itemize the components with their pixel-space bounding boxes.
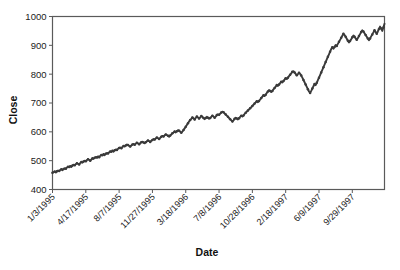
series-marker <box>231 120 234 123</box>
series-marker <box>107 152 110 155</box>
series-marker <box>113 149 116 152</box>
series-marker <box>351 36 354 39</box>
series-marker <box>349 40 352 43</box>
series-marker <box>82 160 85 163</box>
series-marker <box>56 170 59 173</box>
series-marker <box>204 117 207 120</box>
series-marker <box>167 135 170 138</box>
series-marker <box>213 116 216 119</box>
series-marker <box>182 129 185 132</box>
series-marker <box>300 74 303 77</box>
series-marker <box>58 170 61 173</box>
series-marker <box>89 159 92 162</box>
series-marker <box>65 167 68 170</box>
series-marker <box>316 82 319 85</box>
series-marker <box>162 135 165 138</box>
x-tick-label: 7/8/1996 <box>192 192 224 224</box>
series-marker <box>93 157 96 160</box>
y-axis-title: Close <box>7 96 19 125</box>
series-marker <box>309 92 312 95</box>
series-marker <box>347 39 350 42</box>
series-marker <box>158 138 161 141</box>
y-axis-tick-labels: 4005006007008009001000 <box>25 11 46 195</box>
series-marker <box>313 83 316 86</box>
series-marker <box>127 144 130 147</box>
series-marker <box>336 45 339 48</box>
series-marker <box>209 117 212 120</box>
series-marker <box>258 100 261 103</box>
y-tick-label: 900 <box>31 40 47 51</box>
series-marker <box>327 56 330 59</box>
series-marker <box>269 90 272 93</box>
series-marker <box>251 105 254 108</box>
series-marker <box>138 143 141 146</box>
series-marker <box>91 157 94 160</box>
y-tick-label: 500 <box>31 155 47 166</box>
series-marker <box>180 131 183 134</box>
y-tick-label: 1000 <box>25 11 46 22</box>
series-marker <box>60 168 63 171</box>
series-marker <box>80 161 83 164</box>
series-marker <box>51 172 54 175</box>
series-marker <box>322 66 325 69</box>
series-marker <box>98 156 101 159</box>
series-marker <box>340 37 343 40</box>
series-marker <box>247 109 250 112</box>
series-marker <box>278 83 281 86</box>
series-marker <box>198 117 201 120</box>
x-tick-label: 1/3/1995 <box>25 192 57 224</box>
series-marker <box>136 142 139 145</box>
series-marker <box>156 136 159 139</box>
series-marker <box>173 130 176 133</box>
series-marker <box>302 79 305 82</box>
series-marker <box>120 147 123 150</box>
series-marker <box>344 35 347 38</box>
series-marker <box>382 26 385 29</box>
series-marker <box>360 31 363 34</box>
series-marker <box>353 35 356 38</box>
series-marker <box>176 130 179 133</box>
series-marker <box>311 87 314 90</box>
series-marker <box>240 114 243 117</box>
series-marker <box>69 165 72 168</box>
series-marker <box>318 76 321 79</box>
series-marker <box>282 80 285 83</box>
series-marker <box>145 141 148 144</box>
series-marker <box>244 112 247 115</box>
series-marker <box>122 145 125 148</box>
series-marker <box>369 37 372 40</box>
series-marker <box>362 30 365 32</box>
y-tick-label: 700 <box>31 97 47 108</box>
series-marker <box>67 165 70 168</box>
series-marker <box>149 141 152 144</box>
x-axis-tick-labels: 1/3/19954/17/19958/7/199511/27/19953/18/… <box>25 192 357 231</box>
series-marker <box>147 139 150 142</box>
series-marker <box>196 115 199 118</box>
series-marker <box>153 138 156 141</box>
series-marker <box>200 115 203 118</box>
series-marker <box>280 80 283 83</box>
x-tick-label: 6/9/1997 <box>292 192 324 224</box>
series-marker <box>273 87 276 90</box>
series-marker <box>307 88 310 91</box>
x-tick-label: 9/29/1997 <box>321 192 356 227</box>
series-marker <box>142 141 145 144</box>
series-marker <box>133 144 136 147</box>
x-axis-title: Date <box>196 246 219 258</box>
series-marker <box>324 61 327 64</box>
series-marker <box>62 168 65 171</box>
x-tick-label: 10/28/1996 <box>218 192 257 231</box>
close-price-line-chart: 4005006007008009001000 1/3/19954/17/1995… <box>0 0 400 270</box>
series-marker <box>76 162 79 165</box>
series-marker <box>171 132 174 135</box>
series-marker <box>100 154 103 157</box>
series-marker <box>220 111 223 114</box>
y-tick-label: 600 <box>31 126 47 137</box>
series-marker <box>296 74 299 77</box>
x-tick-label: 4/17/1995 <box>55 192 90 227</box>
series-marker <box>53 170 56 173</box>
series-marker <box>193 118 196 121</box>
series-marker <box>140 141 143 144</box>
series-marker <box>160 135 163 138</box>
series-marker <box>131 143 134 146</box>
